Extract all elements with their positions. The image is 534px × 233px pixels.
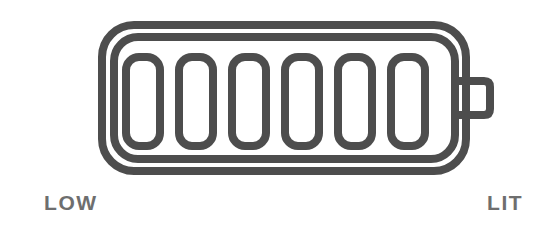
battery-segment-5	[338, 57, 372, 146]
battery-segment-6	[391, 57, 425, 146]
battery-segment-4	[285, 57, 319, 146]
battery-segment-3	[232, 57, 266, 146]
low-label: LOW	[44, 192, 98, 213]
battery-segment-group	[126, 57, 425, 146]
battery-indicator-scene: LOW LIT	[0, 0, 534, 233]
battery-segment-1	[126, 57, 160, 146]
battery-terminal-cap	[455, 81, 490, 115]
battery-segment-2	[179, 57, 213, 146]
lit-label: LIT	[487, 192, 523, 213]
